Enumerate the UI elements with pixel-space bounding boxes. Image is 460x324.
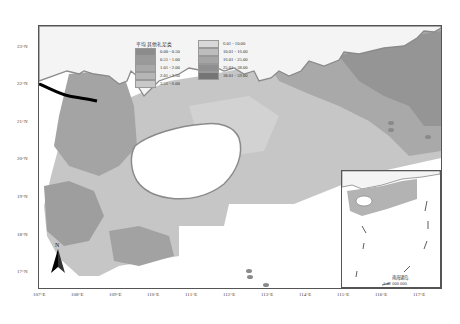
lat-label: 23°N bbox=[17, 44, 28, 49]
legend-item: 2.01 - 3.50 bbox=[135, 72, 180, 79]
lat-label: 18°N bbox=[17, 232, 28, 237]
legend-swatch bbox=[198, 40, 219, 48]
inset-scale: 1:42 000 000 bbox=[383, 281, 407, 286]
lon-label: 116°E bbox=[375, 292, 387, 297]
legend-item: 16.01 - 25.00 bbox=[198, 56, 248, 63]
legend-item: 38.01 - 59.00 bbox=[198, 72, 248, 79]
lon-label: 111°E bbox=[185, 292, 197, 297]
lon-label: 115°E bbox=[337, 292, 349, 297]
lat-label: 20°N bbox=[17, 156, 28, 161]
legend-swatch bbox=[135, 64, 156, 72]
legend-item: 10.01 - 16.00 bbox=[198, 48, 248, 55]
legend-swatch bbox=[135, 72, 156, 80]
lon-label: 117°E bbox=[413, 292, 425, 297]
lon-label: 114°E bbox=[299, 292, 311, 297]
island bbox=[388, 121, 394, 125]
legend-item: 25.01 - 38.00 bbox=[198, 64, 248, 71]
inset-map bbox=[341, 170, 441, 288]
legend-swatch bbox=[135, 48, 156, 56]
legend-swatch bbox=[198, 64, 219, 72]
island bbox=[388, 128, 394, 132]
legend-swatch bbox=[198, 72, 219, 80]
lon-label: 108°E bbox=[71, 292, 84, 297]
lon-label: 109°E bbox=[109, 292, 122, 297]
inset-canvas bbox=[342, 171, 440, 287]
legend-item: 0.00 - 0.50 bbox=[135, 48, 180, 55]
lon-label: 113°E bbox=[261, 292, 273, 297]
lat-label: 21°N bbox=[17, 119, 28, 124]
legend-item: 0.51 - 1.00 bbox=[135, 56, 180, 63]
legend-item: 1.01 - 2.00 bbox=[135, 64, 180, 71]
lat-label: 17°N bbox=[17, 269, 28, 274]
lat-label: 22°N bbox=[17, 81, 28, 86]
island bbox=[425, 135, 431, 139]
lon-label: 110°E bbox=[147, 292, 159, 297]
lon-label: 107°E bbox=[33, 292, 46, 297]
inset-title: 南海诸岛 bbox=[392, 274, 408, 280]
island bbox=[263, 283, 269, 287]
lon-label: 112°E bbox=[223, 292, 235, 297]
north-arrow-icon bbox=[50, 245, 66, 275]
legend-item: 6.01 - 10.00 bbox=[198, 40, 245, 47]
island bbox=[246, 269, 252, 273]
legend-swatch bbox=[135, 80, 156, 88]
legend-item: 3.51 - 6.00 bbox=[135, 80, 180, 87]
legend-swatch bbox=[135, 56, 156, 64]
island bbox=[247, 275, 253, 279]
legend-swatch bbox=[198, 56, 219, 64]
legend-swatch bbox=[198, 48, 219, 56]
legend-title: 平均 其他礼足类 bbox=[136, 40, 172, 47]
lat-label: 19°N bbox=[17, 194, 28, 199]
